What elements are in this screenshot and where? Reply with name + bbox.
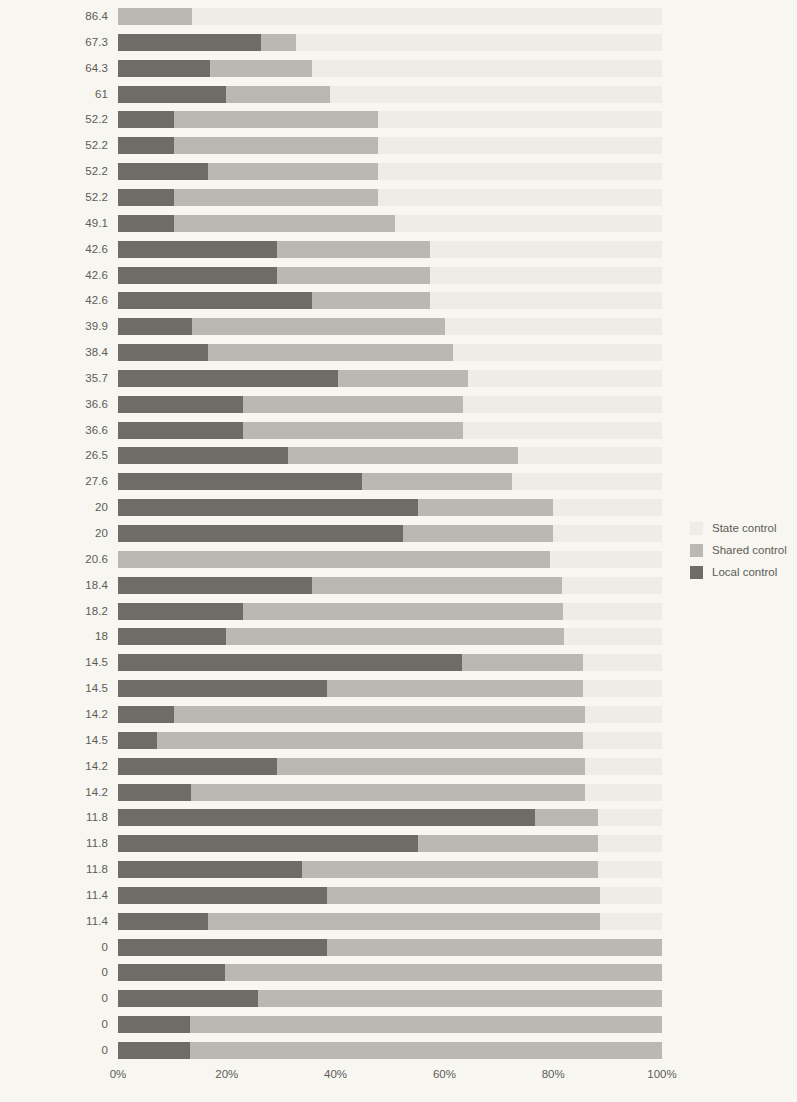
bar-row: 11.8 [0, 861, 700, 887]
y-axis-label: 36.6 [0, 422, 108, 439]
bar-segment-shared [277, 758, 585, 775]
bar-segment-shared [312, 292, 430, 309]
bar-row: 14.5 [0, 732, 700, 758]
bar-segment-state [583, 732, 662, 749]
stacked-bar [118, 499, 662, 516]
bar-segment-local [118, 34, 261, 51]
bar-segment-local [118, 758, 277, 775]
bar-segment-state [600, 913, 662, 930]
bar-row: 52.2 [0, 137, 700, 163]
y-axis-label: 52.2 [0, 163, 108, 180]
y-axis-label: 18 [0, 628, 108, 645]
bar-segment-state [378, 189, 662, 206]
x-axis: 0%20%40%60%80%100% [0, 1068, 797, 1088]
y-axis-label: 14.2 [0, 706, 108, 723]
bar-segment-state [312, 60, 662, 77]
bar-segment-shared [277, 267, 430, 284]
x-axis-tick-label: 40% [324, 1068, 347, 1080]
bar-row: 14.2 [0, 784, 700, 810]
bar-segment-local [118, 835, 418, 852]
x-axis-tick-label: 0% [110, 1068, 127, 1080]
bar-segment-shared [208, 344, 453, 361]
bar-row: 27.6 [0, 473, 700, 499]
stacked-bar [118, 34, 662, 51]
stacked-bar [118, 680, 662, 697]
stacked-bar [118, 422, 662, 439]
legend-label: Shared control [712, 544, 787, 556]
stacked-bar [118, 706, 662, 723]
bar-row: 11.8 [0, 809, 700, 835]
bar-row: 18 [0, 628, 700, 654]
bar-segment-local [118, 447, 288, 464]
bar-segment-state [468, 370, 662, 387]
bar-segment-local [118, 499, 418, 516]
stacked-bar [118, 939, 662, 956]
bar-segment-shared [174, 706, 585, 723]
bar-row: 20.6 [0, 551, 700, 577]
bar-segment-local [118, 654, 462, 671]
bar-segment-state [598, 835, 662, 852]
bar-row: 14.5 [0, 680, 700, 706]
x-axis-tick-label: 60% [433, 1068, 456, 1080]
stacked-bar [118, 861, 662, 878]
bar-segment-state [512, 473, 662, 490]
x-axis-tick-label: 20% [215, 1068, 238, 1080]
bar-segment-state [553, 525, 662, 542]
y-axis-label: 14.5 [0, 732, 108, 749]
y-axis-label: 14.2 [0, 758, 108, 775]
bar-segment-state [585, 706, 662, 723]
bar-row: 18.4 [0, 577, 700, 603]
bar-segment-state [585, 758, 662, 775]
bar-segment-shared [243, 603, 563, 620]
stacked-bar [118, 137, 662, 154]
bar-row: 11.4 [0, 913, 700, 939]
y-axis-label: 20 [0, 499, 108, 516]
bar-segment-shared [462, 654, 583, 671]
y-axis-label: 42.6 [0, 241, 108, 258]
bar-segment-state [598, 861, 662, 878]
bar-row: 0 [0, 1042, 700, 1068]
bar-segment-state [378, 163, 662, 180]
stacked-bar [118, 292, 662, 309]
bar-segment-shared [362, 473, 512, 490]
bar-row: 20 [0, 525, 700, 551]
bar-segment-shared [174, 111, 378, 128]
stacked-bar [118, 835, 662, 852]
bar-segment-local [118, 732, 157, 749]
bar-segment-state [550, 551, 662, 568]
bar-segment-local [118, 939, 327, 956]
y-axis-label: 0 [0, 990, 108, 1007]
y-axis-label: 20 [0, 525, 108, 542]
bar-segment-state [445, 318, 662, 335]
bar-row: 14.5 [0, 654, 700, 680]
legend-item: Shared control [690, 539, 794, 561]
bar-segment-local [118, 913, 208, 930]
stacked-bar [118, 473, 662, 490]
y-axis-label: 11.4 [0, 887, 108, 904]
bar-segment-local [118, 241, 277, 258]
bar-segment-shared [226, 628, 564, 645]
bar-segment-state [563, 603, 662, 620]
bar-segment-shared [418, 835, 598, 852]
bar-segment-local [118, 784, 191, 801]
bar-segment-local [118, 706, 174, 723]
bar-row: 36.6 [0, 396, 700, 422]
bar-segment-shared [174, 189, 378, 206]
bar-segment-shared [258, 990, 662, 1007]
bar-segment-local [118, 60, 210, 77]
bar-segment-shared [190, 1042, 662, 1059]
y-axis-label: 0 [0, 1016, 108, 1033]
y-axis-label: 42.6 [0, 292, 108, 309]
stacked-bar [118, 318, 662, 335]
bar-segment-state [378, 111, 662, 128]
bar-segment-local [118, 680, 327, 697]
stacked-bar [118, 396, 662, 413]
bar-segment-state [463, 422, 662, 439]
bar-row: 0 [0, 939, 700, 965]
bar-segment-local [118, 422, 243, 439]
bar-row: 11.4 [0, 887, 700, 913]
bar-segment-state [583, 680, 662, 697]
bar-segment-local [118, 603, 243, 620]
legend-label: Local control [712, 566, 777, 578]
stacked-bar [118, 60, 662, 77]
